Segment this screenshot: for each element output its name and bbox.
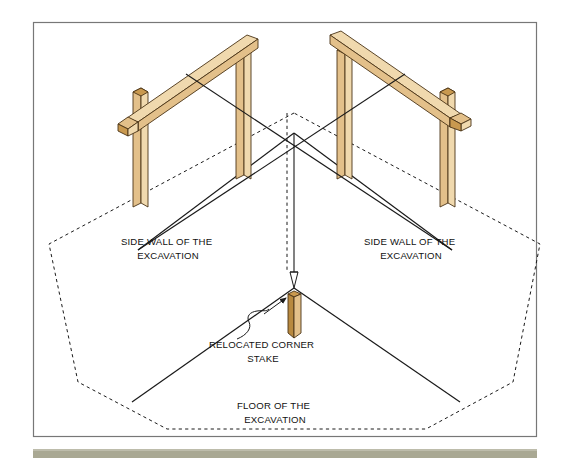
construction-diagram: SIDE WALL OF THE EXCAVATION SIDE WALL OF…: [0, 0, 568, 465]
corner-stake: [288, 291, 301, 338]
canvas-background: [0, 0, 568, 465]
figure-root: SIDE WALL OF THE EXCAVATION SIDE WALL OF…: [0, 0, 568, 465]
corner-stake-face-right: [294, 294, 301, 338]
batter-board-right-post-far: [337, 46, 352, 179]
corner-stake-face-left: [288, 294, 294, 338]
footer-bar-highlight: [33, 449, 537, 451]
